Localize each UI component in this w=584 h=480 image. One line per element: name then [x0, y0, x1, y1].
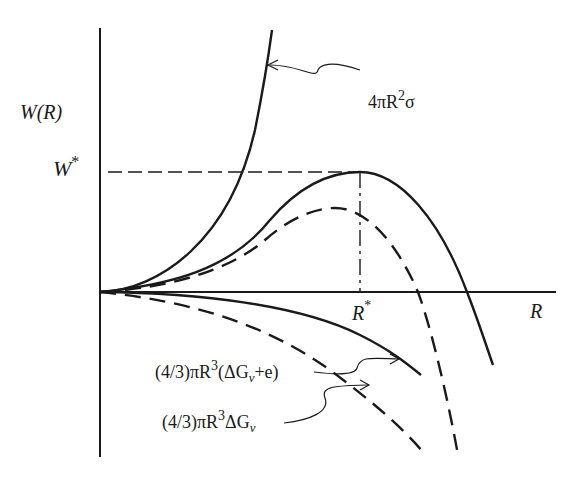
- w-star-label: W*: [53, 153, 79, 181]
- x-axis-label: R: [529, 300, 542, 322]
- volume-term-label: (4/3)πR3ΔGv: [162, 408, 256, 435]
- volume-strain-term-label: (4/3)πR3(ΔGv+e): [155, 358, 279, 385]
- total-energy-strain-curve: [100, 172, 493, 365]
- r-star-label: R*: [351, 298, 371, 324]
- surface-term-leader-arrow: [270, 64, 360, 73]
- volume-strain-leader-arrow: [314, 358, 398, 374]
- surface-term-label: 4πR2σ: [368, 88, 415, 112]
- nucleation-energy-diagram: W(R) R W* R* 4πR2σ (4/3)πR3(ΔGv+e) (4/3)…: [0, 0, 584, 480]
- total-energy-curve: [100, 208, 458, 455]
- y-axis-label: W(R): [20, 101, 63, 124]
